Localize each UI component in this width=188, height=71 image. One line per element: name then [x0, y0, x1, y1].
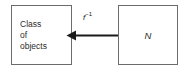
- edge-arrowhead-icon: [67, 31, 77, 41]
- edge-label-exponent: −1: [85, 11, 92, 17]
- edge-arrow-f-inverse: [0, 0, 188, 71]
- edge-label-f-inverse: f−1: [83, 13, 92, 22]
- diagram-canvas: Class of objects N f−1: [0, 0, 188, 71]
